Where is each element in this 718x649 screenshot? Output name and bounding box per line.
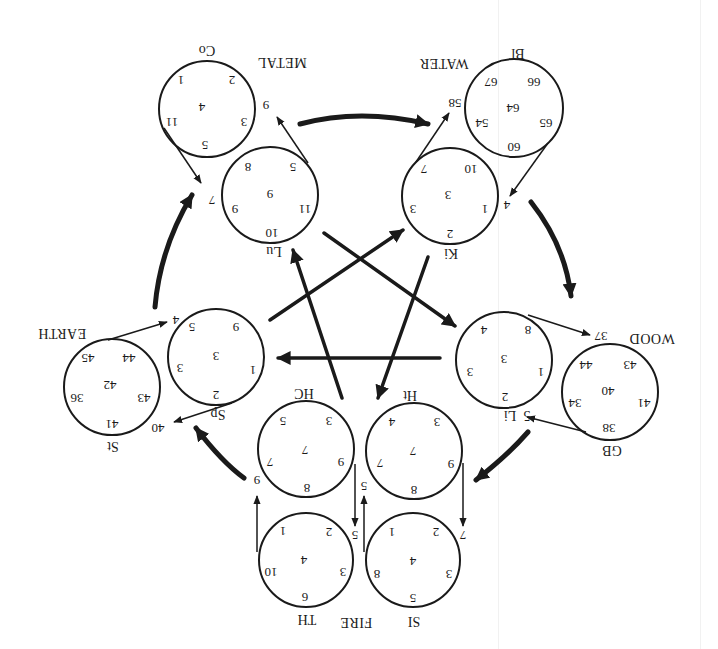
- arrow-wood-to-fire: [476, 432, 528, 480]
- arrow-fire-to-earth: [196, 428, 244, 478]
- ki-center-point: 3: [445, 188, 452, 203]
- diagram-canvas: METAL WATER WOOD EARTH FIRE Co 4 1 2 3 5…: [0, 0, 718, 649]
- ki-point: 1: [482, 202, 489, 217]
- meridian-bl-label: Bl: [511, 46, 524, 61]
- ki-point: 3: [410, 202, 417, 217]
- connector-label-wood-out: 37: [594, 329, 608, 344]
- co-point: 1: [178, 73, 185, 88]
- ki-point: 2: [447, 227, 454, 242]
- lu-point: 5: [290, 160, 297, 175]
- co-point: 11: [166, 115, 179, 130]
- th-point: 1: [280, 524, 287, 539]
- st-point: 43: [138, 391, 151, 406]
- th-center-point: 4: [300, 553, 307, 568]
- hc-center-point: 7: [301, 443, 308, 458]
- meridian-co-label: Co: [199, 43, 215, 58]
- meridian-li-label: Li: [504, 408, 517, 423]
- sp-point: 5: [189, 320, 196, 335]
- lu-point: 9: [232, 202, 239, 217]
- meridian-st-label: St: [107, 439, 119, 454]
- arrow-hc-to-lu: [293, 250, 342, 398]
- bl-point: 67: [484, 75, 498, 90]
- connector-label-fire-in-si: 7: [459, 528, 466, 543]
- meridian-th-label: TH: [298, 612, 317, 627]
- meridian-ht-label: Ht: [403, 388, 417, 403]
- connector-label-metal-out: 9: [263, 98, 270, 113]
- ki-point: 10: [465, 162, 478, 177]
- connector-label-water-in: 4: [503, 198, 510, 213]
- gb-point: 34: [568, 396, 582, 411]
- arrow-st-to-earth-out: [108, 322, 167, 340]
- th-point: 6: [301, 590, 308, 605]
- ht-point: 7: [376, 456, 383, 471]
- lu-center-point: 9: [267, 187, 274, 202]
- ht-point: 9: [448, 457, 455, 472]
- bl-point: 66: [527, 75, 541, 90]
- li-point: 2: [502, 390, 509, 405]
- gb-point: 41: [638, 396, 651, 411]
- sp-point: 9: [233, 320, 240, 335]
- hc-point: 7: [266, 455, 273, 470]
- li-point: 3: [467, 365, 474, 380]
- sp-center-point: 3: [213, 349, 220, 364]
- gb-center-point: 40: [602, 384, 615, 399]
- st-point: 36: [70, 391, 84, 406]
- si-point: 2: [433, 525, 440, 540]
- ht-point: 4: [388, 415, 395, 430]
- sp-point: 2: [213, 388, 220, 403]
- element-wood-label: WOOD: [629, 331, 675, 346]
- si-point: 1: [389, 525, 396, 540]
- connector-label-earth-out: 4: [172, 313, 179, 328]
- meridian-sp-label: Sp: [211, 407, 226, 422]
- bl-point: 65: [540, 116, 553, 131]
- co-center-point: 4: [198, 100, 205, 115]
- lu-point: 11: [299, 202, 312, 217]
- element-metal-label: METAL: [257, 55, 307, 70]
- gb-point: 43: [624, 358, 637, 373]
- co-point: 3: [241, 115, 248, 130]
- li-point: 4: [480, 323, 487, 338]
- element-earth-label: EARTH: [38, 326, 86, 341]
- sp-point: 1: [250, 363, 257, 378]
- st-point: 45: [82, 351, 95, 366]
- ko-cycle-arrows: [270, 230, 455, 398]
- ki-point: 7: [420, 162, 427, 177]
- connector-arrows: [108, 113, 590, 552]
- bl-point: 54: [475, 116, 489, 131]
- si-center-point: 4: [409, 554, 416, 569]
- gb-point: 38: [603, 421, 616, 436]
- th-point: 2: [326, 525, 333, 540]
- hc-point: 3: [326, 414, 333, 429]
- li-point: 8: [525, 323, 532, 338]
- si-point: 3: [446, 567, 453, 582]
- gb-point: 44: [579, 358, 593, 373]
- st-center-point: 42: [104, 378, 117, 393]
- hc-point: 5: [280, 414, 287, 429]
- meridian-gb-label: GB: [602, 443, 621, 458]
- arrow-earth-to-metal: [155, 195, 192, 307]
- meridian-si-label: SI: [407, 614, 420, 629]
- hc-point: 9: [338, 455, 345, 470]
- connector-label-earth-in: 40: [152, 421, 165, 436]
- meridian-ki-label: Ki: [444, 246, 458, 261]
- si-point: 5: [410, 591, 417, 606]
- labels: METAL WATER WOOD EARTH FIRE Co 4 1 2 3 5…: [38, 43, 675, 630]
- li-prefix-point: 5: [524, 408, 531, 423]
- ht-center-point: 7: [409, 444, 416, 459]
- meridian-lu-label: Lu: [266, 244, 282, 259]
- ht-point: 8: [411, 483, 418, 498]
- meridian-hc-label: HC: [294, 386, 313, 401]
- connector-label-water-out: 58: [449, 96, 462, 111]
- st-point: 41: [106, 417, 119, 432]
- meridian-circles: [64, 59, 658, 607]
- connector-label-si-to-ht: 5: [361, 479, 368, 494]
- st-point: 44: [122, 351, 136, 366]
- connector-label-hc-to-th: 5: [352, 528, 359, 543]
- element-water-label: WATER: [419, 56, 468, 71]
- li-center-point: 3: [501, 352, 508, 367]
- element-fire-label: FIRE: [340, 615, 372, 630]
- li-point: 1: [538, 365, 545, 380]
- connector-label-metal-in: 7: [208, 193, 215, 208]
- co-point: 2: [229, 73, 236, 88]
- lu-point: 8: [245, 160, 252, 175]
